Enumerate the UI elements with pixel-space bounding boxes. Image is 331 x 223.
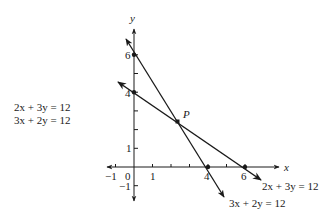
x-tick-label-1: 1 xyxy=(150,170,156,182)
intersection-point-p xyxy=(176,120,180,124)
intercept-dot-y4 xyxy=(132,90,136,94)
y-tick-label-6: 6 xyxy=(125,49,131,61)
x-tick-label-6: 6 xyxy=(241,170,247,182)
line-label-2x-3y-12: 2x + 3y = 12 xyxy=(262,180,318,192)
coordinate-graph: y x P −1 0 1 4 6 6 4 1 −1 2x + 3y = 12 3… xyxy=(0,0,331,223)
x-tick-label-neg1: −1 xyxy=(105,170,117,182)
intercept-dot-x4 xyxy=(206,165,210,169)
point-label-p: P xyxy=(182,108,190,120)
x-axis-label: x xyxy=(283,161,289,173)
y-ticks xyxy=(134,55,138,186)
intercept-dot-x6 xyxy=(243,165,247,169)
y-tick-label-neg1: −1 xyxy=(119,180,131,192)
intercept-dot-y6 xyxy=(132,53,136,57)
line-label-3x-2y-12: 3x + 2y = 12 xyxy=(229,197,285,209)
y-axis-label: y xyxy=(129,12,135,24)
y-tick-label-1: 1 xyxy=(126,142,132,154)
y-tick-label-4: 4 xyxy=(125,87,131,99)
x-tick-label-4: 4 xyxy=(204,170,210,182)
